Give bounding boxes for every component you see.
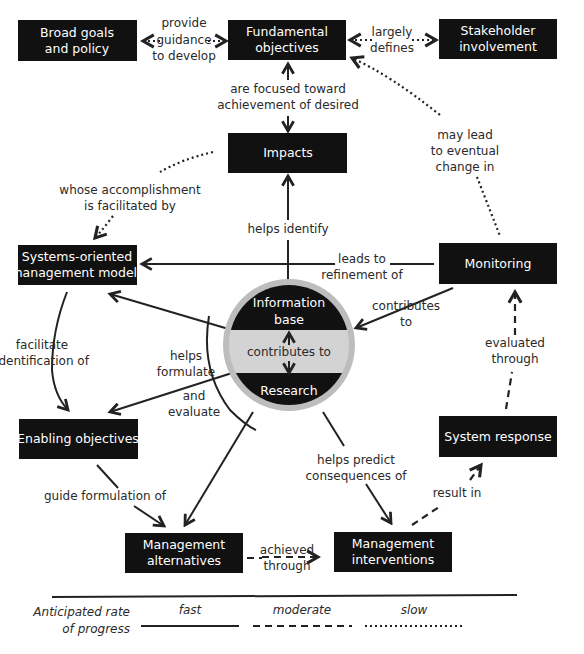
label-leads-to-refinement: leads to refinement of xyxy=(321,252,403,282)
node-information-base-line2: base xyxy=(274,312,304,327)
svg-text:to develop: to develop xyxy=(152,49,216,63)
svg-text:contributes: contributes xyxy=(372,299,440,313)
legend-slow-label: slow xyxy=(401,603,428,617)
label-guide-formulation: guide formulation of xyxy=(44,489,167,503)
node-management-alternatives: Management alternatives xyxy=(125,533,243,573)
node-impacts-label: Impacts xyxy=(263,145,313,160)
node-alternatives-line1: Management xyxy=(143,537,225,552)
node-impacts: Impacts xyxy=(228,133,347,173)
label-largely-defines: largely defines xyxy=(370,25,414,55)
edge-whose-accomplishment xyxy=(160,152,213,172)
svg-text:provide: provide xyxy=(161,16,206,30)
label-helps-formulate: helps formulate xyxy=(157,349,215,379)
label-result-in: result in xyxy=(433,486,482,500)
legend-title-line1: Anticipated rate xyxy=(32,605,130,619)
svg-text:is facilitated by: is facilitated by xyxy=(84,199,176,213)
node-broad-goals-line1: Broad goals xyxy=(40,25,114,40)
node-systems-line2: management models xyxy=(10,265,143,280)
svg-text:formulate: formulate xyxy=(157,365,215,379)
svg-text:guidance: guidance xyxy=(156,33,211,47)
legend-title-line2: of progress xyxy=(62,622,130,636)
label-facilitate-identification: facilitate identification of xyxy=(0,338,90,368)
svg-text:achievement of desired: achievement of desired xyxy=(217,98,359,112)
edge-may-lead xyxy=(352,58,440,115)
svg-text:may lead: may lead xyxy=(437,128,493,142)
node-enabling-objectives: Enabling objectives xyxy=(17,419,139,459)
svg-text:to: to xyxy=(400,315,412,329)
svg-text:to eventual: to eventual xyxy=(431,144,499,158)
information-research-circle: Information base contributes to Research xyxy=(220,279,360,413)
svg-text:evaluated: evaluated xyxy=(485,336,545,350)
node-broad-goals-line2: and policy xyxy=(45,41,110,56)
legend-fast-label: fast xyxy=(179,603,203,617)
svg-text:whose accomplishment: whose accomplishment xyxy=(59,183,201,197)
svg-text:identification of: identification of xyxy=(0,354,90,368)
node-systems-oriented-models: Systems-oriented management models xyxy=(10,245,143,285)
svg-text:refinement of: refinement of xyxy=(321,268,403,282)
node-broad-goals: Broad goals and policy xyxy=(18,20,137,61)
edge-research-to-alternatives xyxy=(185,412,253,525)
node-information-base-line1: Information xyxy=(253,295,325,310)
label-helps-identify: helps identify xyxy=(247,222,328,236)
svg-text:helps predict: helps predict xyxy=(317,453,395,467)
svg-text:evaluate: evaluate xyxy=(168,405,220,419)
node-interventions-line2: interventions xyxy=(352,552,435,567)
node-fundamental-line2: objectives xyxy=(255,40,319,55)
legend: Anticipated rate of progress fast modera… xyxy=(32,595,517,636)
node-stakeholder-involvement: Stakeholder involvement xyxy=(439,19,557,59)
node-interventions-line1: Management xyxy=(352,536,434,551)
node-stakeholder-line1: Stakeholder xyxy=(461,23,537,38)
node-alternatives-line2: alternatives xyxy=(147,553,221,568)
node-system-response-label: System response xyxy=(444,429,552,444)
label-may-lead: may lead to eventual change in xyxy=(431,128,499,174)
svg-text:consequences of: consequences of xyxy=(305,469,407,483)
label-whose-accomplishment: whose accomplishment is facilitated by xyxy=(59,183,201,213)
node-fundamental-objectives: Fundamental objectives xyxy=(228,20,346,60)
svg-text:defines: defines xyxy=(370,41,414,55)
label-evaluated-through: evaluated through xyxy=(485,336,545,366)
node-stakeholder-line2: involvement xyxy=(459,39,537,54)
label-provide-guidance: provide guidance to develop xyxy=(152,16,216,63)
svg-text:through: through xyxy=(263,559,310,573)
node-monitoring-label: Monitoring xyxy=(465,256,532,271)
svg-text:are focused toward: are focused toward xyxy=(230,82,346,96)
node-fundamental-line1: Fundamental xyxy=(246,24,328,39)
svg-text:facilitate: facilitate xyxy=(16,338,68,352)
label-and-evaluate: and evaluate xyxy=(168,389,220,419)
svg-text:largely: largely xyxy=(372,25,413,39)
node-research: Research xyxy=(260,383,317,398)
label-focused-toward: are focused toward achievement of desire… xyxy=(217,82,359,112)
edge-achieved-through xyxy=(247,557,318,558)
diagram-canvas: Information base contributes to Research… xyxy=(0,0,584,654)
edge-evaluated-through xyxy=(506,292,515,409)
svg-text:helps: helps xyxy=(170,349,202,363)
node-monitoring: Monitoring xyxy=(439,243,557,284)
edge-info-to-systems xyxy=(110,294,232,330)
svg-text:change in: change in xyxy=(436,160,495,174)
node-enabling-label: Enabling objectives xyxy=(17,431,139,446)
node-management-interventions: Management interventions xyxy=(334,532,452,572)
svg-text:and: and xyxy=(183,389,206,403)
label-helps-predict: helps predict consequences of xyxy=(305,453,407,483)
node-systems-line1: Systems-oriented xyxy=(22,249,132,264)
svg-text:leads to: leads to xyxy=(338,252,386,266)
edge-helps-predict xyxy=(323,412,391,523)
legend-moderate-label: moderate xyxy=(273,603,331,617)
node-system-response: System response xyxy=(439,416,557,457)
label-contributes-to-center: contributes to xyxy=(247,345,331,359)
svg-text:through: through xyxy=(491,352,538,366)
legend-divider xyxy=(52,595,517,597)
label-contributes-to-right: contributes to xyxy=(372,299,440,329)
svg-text:achieved: achieved xyxy=(260,543,314,557)
